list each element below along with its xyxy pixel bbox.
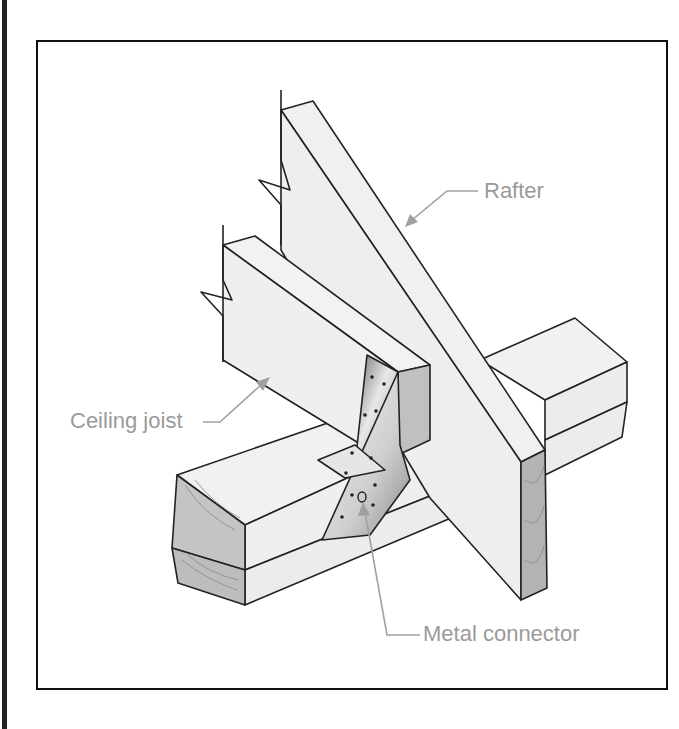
metal-connector-label: Metal connector bbox=[423, 621, 580, 647]
rafter-leader bbox=[412, 191, 478, 220]
ceiling-joist-label: Ceiling joist bbox=[70, 408, 183, 434]
rafter-label: Rafter bbox=[484, 178, 544, 204]
framing-illustration bbox=[0, 0, 679, 729]
ceiling-joist-leader bbox=[203, 384, 262, 422]
